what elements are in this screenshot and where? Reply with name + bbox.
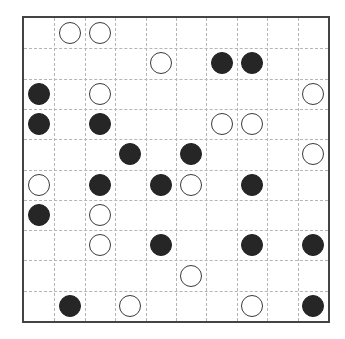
board-cell-r7-c3[interactable] [115,230,145,260]
board-cell-r4-c9[interactable] [298,139,328,169]
board-cell-r9-c0[interactable] [24,291,54,321]
board-cell-r3-c4[interactable] [146,109,176,139]
board-cell-r1-c2[interactable] [85,48,115,78]
board-cell-r8-c8[interactable] [267,260,297,290]
board-cell-r9-c6[interactable] [206,291,236,321]
board-cell-r3-c0[interactable] [24,109,54,139]
board-cell-r4-c1[interactable] [54,139,84,169]
board-cell-r8-c5[interactable] [176,260,206,290]
board-cell-r1-c4[interactable] [146,48,176,78]
board-cell-r5-c9[interactable] [298,170,328,200]
board-cell-r0-c8[interactable] [267,18,297,48]
board-cell-r7-c8[interactable] [267,230,297,260]
board-cell-r2-c4[interactable] [146,79,176,109]
board-cell-r4-c3[interactable] [115,139,145,169]
board-cell-r5-c1[interactable] [54,170,84,200]
board-cell-r5-c5[interactable] [176,170,206,200]
board-cell-r5-c4[interactable] [146,170,176,200]
board-cell-r3-c3[interactable] [115,109,145,139]
board-cell-r6-c8[interactable] [267,200,297,230]
board-cell-r6-c1[interactable] [54,200,84,230]
board-cell-r8-c2[interactable] [85,260,115,290]
board-cell-r4-c5[interactable] [176,139,206,169]
board-cell-r5-c2[interactable] [85,170,115,200]
board-cell-r1-c9[interactable] [298,48,328,78]
board-cell-r8-c0[interactable] [24,260,54,290]
board-cell-r5-c7[interactable] [237,170,267,200]
board-cell-r0-c2[interactable] [85,18,115,48]
board-cell-r9-c8[interactable] [267,291,297,321]
board-cell-r6-c3[interactable] [115,200,145,230]
board-cell-r1-c5[interactable] [176,48,206,78]
board-cell-r1-c0[interactable] [24,48,54,78]
board-cell-r7-c0[interactable] [24,230,54,260]
board-cell-r2-c2[interactable] [85,79,115,109]
board-cell-r6-c0[interactable] [24,200,54,230]
board-cell-r0-c7[interactable] [237,18,267,48]
board-cell-r8-c9[interactable] [298,260,328,290]
board-cell-r5-c6[interactable] [206,170,236,200]
board-cell-r9-c7[interactable] [237,291,267,321]
board-cell-r6-c9[interactable] [298,200,328,230]
board-cell-r6-c4[interactable] [146,200,176,230]
board-cell-r3-c8[interactable] [267,109,297,139]
board-cell-r2-c8[interactable] [267,79,297,109]
board-cell-r4-c4[interactable] [146,139,176,169]
board-cell-r3-c6[interactable] [206,109,236,139]
board-cell-r9-c3[interactable] [115,291,145,321]
board-cell-r8-c1[interactable] [54,260,84,290]
board-cell-r7-c5[interactable] [176,230,206,260]
board-cell-r1-c6[interactable] [206,48,236,78]
board-cell-r0-c3[interactable] [115,18,145,48]
board-cell-r0-c5[interactable] [176,18,206,48]
board-cell-r6-c2[interactable] [85,200,115,230]
board-cell-r7-c6[interactable] [206,230,236,260]
board-cell-r1-c3[interactable] [115,48,145,78]
board-cell-r9-c1[interactable] [54,291,84,321]
board-cell-r2-c0[interactable] [24,79,54,109]
board-cell-r0-c0[interactable] [24,18,54,48]
board-cell-r4-c6[interactable] [206,139,236,169]
board-cell-r2-c9[interactable] [298,79,328,109]
board-cell-r4-c8[interactable] [267,139,297,169]
board-cell-r3-c5[interactable] [176,109,206,139]
board-cell-r2-c1[interactable] [54,79,84,109]
board-cell-r8-c4[interactable] [146,260,176,290]
board-cell-r9-c2[interactable] [85,291,115,321]
board-cell-r2-c3[interactable] [115,79,145,109]
board-cell-r1-c8[interactable] [267,48,297,78]
board-cell-r9-c4[interactable] [146,291,176,321]
board-cell-r4-c0[interactable] [24,139,54,169]
board-cell-r5-c8[interactable] [267,170,297,200]
board-cell-r1-c1[interactable] [54,48,84,78]
board-cell-r2-c5[interactable] [176,79,206,109]
board-cell-r0-c6[interactable] [206,18,236,48]
board-cell-r6-c7[interactable] [237,200,267,230]
board-cell-r7-c9[interactable] [298,230,328,260]
board-cell-r2-c7[interactable] [237,79,267,109]
board-cell-r3-c2[interactable] [85,109,115,139]
board-cell-r4-c7[interactable] [237,139,267,169]
board-cell-r6-c5[interactable] [176,200,206,230]
board-cell-r2-c6[interactable] [206,79,236,109]
board-cell-r8-c6[interactable] [206,260,236,290]
board-cell-r4-c2[interactable] [85,139,115,169]
board-cell-r6-c6[interactable] [206,200,236,230]
board-cell-r0-c1[interactable] [54,18,84,48]
board-cell-r0-c9[interactable] [298,18,328,48]
board-cell-r7-c2[interactable] [85,230,115,260]
board-cell-r3-c1[interactable] [54,109,84,139]
board-cell-r3-c7[interactable] [237,109,267,139]
board-cell-r5-c0[interactable] [24,170,54,200]
board-cell-r8-c7[interactable] [237,260,267,290]
board-cell-r3-c9[interactable] [298,109,328,139]
board-cell-r7-c7[interactable] [237,230,267,260]
board-cell-r9-c5[interactable] [176,291,206,321]
board-cell-r9-c9[interactable] [298,291,328,321]
board-cell-r1-c7[interactable] [237,48,267,78]
board-cell-r5-c3[interactable] [115,170,145,200]
board-cell-r7-c4[interactable] [146,230,176,260]
board-cell-r7-c1[interactable] [54,230,84,260]
board-cell-r8-c3[interactable] [115,260,145,290]
board-cell-r0-c4[interactable] [146,18,176,48]
